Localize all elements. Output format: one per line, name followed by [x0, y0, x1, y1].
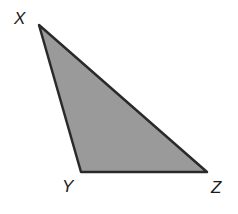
triangle-xyz [39, 25, 207, 172]
vertex-label-x: X [13, 9, 26, 28]
vertex-label-y: Y [62, 177, 75, 196]
triangle-diagram: X Y Z [0, 0, 238, 214]
vertex-label-z: Z [210, 178, 222, 197]
